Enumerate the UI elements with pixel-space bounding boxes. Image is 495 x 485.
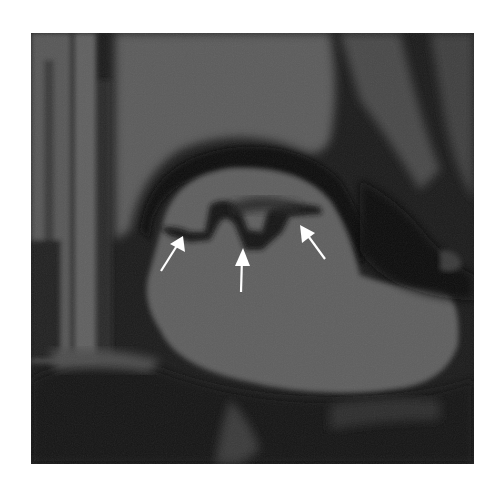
mri-image	[31, 33, 474, 464]
mri-canvas	[31, 33, 474, 464]
